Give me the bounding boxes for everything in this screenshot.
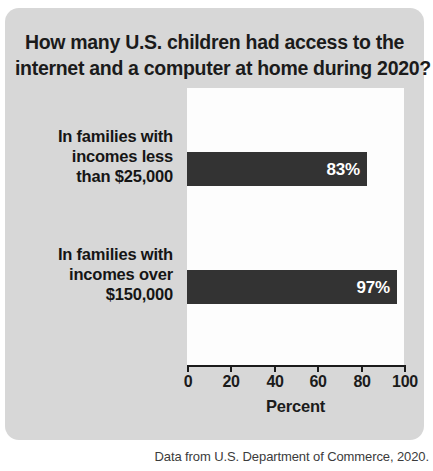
x-axis-line <box>187 365 404 367</box>
bar-high-income: 97% <box>187 270 397 304</box>
x-axis-tick-60 <box>317 365 319 372</box>
x-axis-label-20: 20 <box>222 373 239 391</box>
category-label-low-income-line-1: In families with <box>3 126 173 146</box>
x-axis-tick-80 <box>361 365 363 372</box>
category-label-low-income-line-2: incomes less <box>3 146 173 166</box>
x-axis-title: Percent <box>187 397 404 416</box>
x-axis-label-40: 40 <box>266 373 283 391</box>
x-axis-tick-20 <box>230 365 232 372</box>
x-axis-tick-100 <box>404 365 406 372</box>
chart-title: How many U.S. children had access to the… <box>15 29 414 81</box>
chart-title-line-2: internet and a computer at home during 2… <box>15 55 414 81</box>
x-axis-tick-0 <box>187 365 189 372</box>
bar-value-high-income: 97% <box>357 279 397 296</box>
bar-low-income: 83% <box>187 152 367 186</box>
category-label-high-income-line-1: In families with <box>3 244 173 264</box>
plot-area: 83% 97% <box>187 88 404 365</box>
x-axis-tick-40 <box>274 365 276 372</box>
category-label-low-income: In families with incomes less than $25,0… <box>3 126 173 186</box>
bar-value-low-income: 83% <box>327 161 367 178</box>
source-caption: Data from U.S. Department of Commerce, 2… <box>0 449 429 464</box>
x-axis-label-100: 100 <box>392 373 418 391</box>
chart-title-line-1: How many U.S. children had access to the <box>15 29 414 55</box>
x-axis-label-80: 80 <box>353 373 370 391</box>
category-label-low-income-line-3: than $25,000 <box>3 166 173 186</box>
chart-card: How many U.S. children had access to the… <box>5 8 424 440</box>
category-label-high-income-line-3: $150,000 <box>3 284 173 304</box>
category-label-high-income-line-2: incomes over <box>3 264 173 284</box>
x-axis-label-0: 0 <box>184 373 193 391</box>
x-axis-label-60: 60 <box>309 373 326 391</box>
category-label-high-income: In families with incomes over $150,000 <box>3 244 173 304</box>
